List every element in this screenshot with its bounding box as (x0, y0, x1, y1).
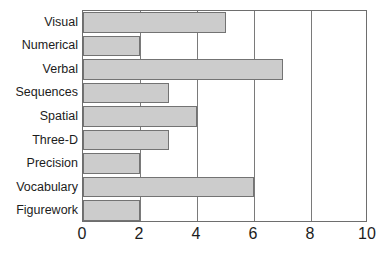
category-axis-labels: VisualNumericalVerbalSequencesSpatialThr… (0, 10, 78, 222)
category-label: Verbal (0, 63, 78, 76)
bar (83, 177, 254, 198)
bar (83, 200, 140, 221)
value-tick-label: 6 (249, 226, 258, 242)
category-label: Numerical (0, 39, 78, 52)
bar-chart: VisualNumericalVerbalSequencesSpatialThr… (0, 0, 380, 260)
value-tick-label: 0 (78, 226, 87, 242)
bars-layer (83, 11, 366, 221)
bar (83, 106, 197, 127)
bar (83, 153, 140, 174)
plot-area (82, 10, 367, 222)
value-tick-label: 8 (306, 226, 315, 242)
bar (83, 130, 169, 151)
category-label: Three-D (0, 134, 78, 147)
bar (83, 12, 226, 33)
category-label: Precision (0, 157, 78, 170)
category-label: Sequences (0, 86, 78, 99)
bar (83, 36, 140, 57)
value-tick-label: 4 (192, 226, 201, 242)
value-tick-label: 2 (135, 226, 144, 242)
category-label: Visual (0, 16, 78, 29)
category-label: Figurework (0, 204, 78, 217)
bar (83, 83, 169, 104)
bar (83, 59, 283, 80)
category-label: Vocabulary (0, 181, 78, 194)
value-axis-labels: 0246810 (0, 226, 380, 254)
value-tick-label: 10 (358, 226, 376, 242)
category-label: Spatial (0, 110, 78, 123)
